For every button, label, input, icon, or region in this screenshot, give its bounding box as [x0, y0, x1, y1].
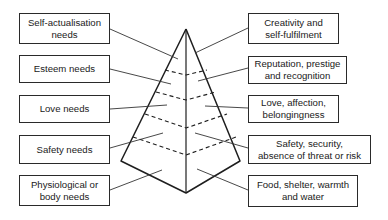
need-label: Safety needs	[36, 144, 92, 156]
example-box-safety-security: Safety, security, absence of threat or r…	[248, 135, 371, 164]
example-box-love-affection: Love, affection, belongingness	[248, 95, 339, 123]
example-box-creativity: Creativity and self-fulfilment	[248, 13, 339, 44]
example-label: Love, affection, belongingness	[261, 97, 326, 121]
example-box-reputation: Reputation, prestige and recognition	[248, 56, 347, 84]
need-box-love: Love needs	[19, 95, 110, 123]
example-label: Reputation, prestige and recognition	[255, 58, 341, 82]
need-label: Self-actualisation needs	[28, 17, 101, 41]
need-label: Esteem needs	[34, 63, 95, 75]
connectors-left	[110, 29, 178, 190]
need-box-esteem: Esteem needs	[19, 55, 110, 83]
need-label: Love needs	[40, 103, 90, 115]
example-label: Food, shelter, warmth and water	[257, 179, 349, 203]
example-box-food-shelter: Food, shelter, warmth and water	[248, 175, 358, 207]
example-label: Creativity and self-fulfilment	[264, 17, 323, 41]
maslow-pyramid-diagram: Self-actualisation needs Esteem needs Lo…	[0, 0, 388, 220]
connectors-right	[195, 28, 248, 190]
need-box-physiological: Physiological or body needs	[19, 175, 110, 206]
need-box-self-actualisation: Self-actualisation needs	[19, 13, 110, 44]
need-box-safety: Safety needs	[19, 135, 110, 164]
example-label: Safety, security, absence of threat or r…	[258, 138, 361, 162]
need-label: Physiological or body needs	[31, 179, 98, 203]
pyramid-outline	[121, 29, 240, 193]
